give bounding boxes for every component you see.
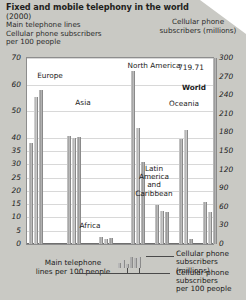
bar <box>67 136 71 244</box>
left-axis-caption-line3: per 100 people <box>6 38 240 47</box>
bar <box>39 90 43 244</box>
bar-group-latin-america-and-caribbean <box>155 58 169 244</box>
bar <box>155 205 159 244</box>
y-tick-right-180: 180 <box>219 127 233 136</box>
y-tick-left-60: 60 <box>12 80 21 89</box>
bar <box>109 238 113 245</box>
bar <box>34 97 38 244</box>
legend-bar-d <box>130 257 133 268</box>
y-tick-left-70: 70 <box>12 53 21 62</box>
bar <box>29 143 33 244</box>
bar <box>104 239 108 244</box>
legend-leader-hline-main <box>76 273 170 274</box>
legend-bar-b <box>122 260 125 268</box>
y-tick-left-30: 30 <box>12 159 21 168</box>
bar-group-europe <box>29 58 43 244</box>
region-label-world: World <box>172 84 216 92</box>
y-tick-right-210: 210 <box>219 109 233 118</box>
legend-cell-per100-line3: per 100 people <box>176 285 231 294</box>
y-tick-right-120: 120 <box>219 165 233 174</box>
y-tick-right-270: 270 <box>219 72 233 81</box>
decorative-corner <box>200 0 246 34</box>
y-tick-left-5: 5 <box>16 226 21 235</box>
y-tick-left-10: 10 <box>12 212 21 221</box>
bar <box>189 239 193 244</box>
region-label-europe: Europe <box>28 72 72 80</box>
y-tick-right-240: 240 <box>219 90 233 99</box>
bar <box>160 211 164 244</box>
y-tick-right-30: 30 <box>219 220 228 229</box>
y-tick-right-300: 300 <box>219 53 233 62</box>
legend-leader-hline-millions <box>146 256 174 257</box>
bar <box>165 212 169 244</box>
bar <box>131 71 135 244</box>
legend-bar-e <box>134 258 137 268</box>
bar <box>203 202 207 245</box>
bar-group-africa <box>99 58 113 244</box>
world-value-annotation: 719.71 <box>178 63 204 72</box>
y-tick-right-90: 90 <box>219 183 228 192</box>
y-tick-left-0: 0 <box>16 239 21 248</box>
chart-legend: Main telephone lines per 100 people Cell… <box>0 248 246 300</box>
y-tick-left-20: 20 <box>12 186 21 195</box>
chart-figure: Fixed and mobile telephony in the world … <box>0 0 246 300</box>
y-tick-right-60: 60 <box>219 202 228 211</box>
bar <box>99 237 103 244</box>
region-label-asia: Asia <box>66 99 100 107</box>
y-tick-left-15: 15 <box>12 199 21 208</box>
bar <box>208 212 212 244</box>
region-label-africa: Africa <box>72 222 108 230</box>
legend-bar-a <box>118 263 121 268</box>
region-label-latin-america: Latin America and Caribbean <box>126 165 182 198</box>
y-tick-left-40: 40 <box>12 133 21 142</box>
bar <box>184 130 188 244</box>
region-label-oceania: Oceania <box>160 100 208 108</box>
legend-bar-f <box>138 257 141 268</box>
bar-group-asia <box>67 58 81 244</box>
bar-group-north-america <box>131 58 145 244</box>
y-tick-right-0: 0 <box>219 239 224 248</box>
y-tick-right-150: 150 <box>219 146 233 155</box>
y-tick-left-35: 35 <box>12 146 21 155</box>
y-tick-left-50: 50 <box>12 106 21 115</box>
y-tick-left-25: 25 <box>12 173 21 182</box>
legend-swatch-group <box>118 256 141 268</box>
